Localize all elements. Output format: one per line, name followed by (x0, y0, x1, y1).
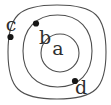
electron-dot-c (7, 34, 13, 40)
label-a: a (52, 37, 63, 59)
label-c: c (6, 13, 17, 35)
label-b: b (39, 26, 51, 48)
electron-dot-b (33, 20, 39, 26)
electron-dot-d (72, 78, 78, 84)
diagram-canvas: a b c d (0, 0, 111, 105)
atom-shell-diagram: a b c d (0, 0, 111, 105)
